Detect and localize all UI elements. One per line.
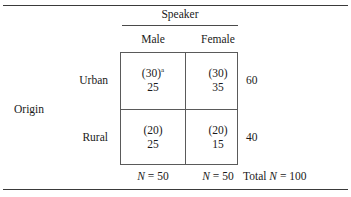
grand-total-prefix: Total — [243, 170, 269, 182]
column-spanner-rule — [122, 25, 238, 26]
expected-frequency: (30) — [186, 66, 250, 80]
column-total-male: N = 50 — [121, 170, 185, 183]
grand-total: Total N = 100 — [243, 170, 343, 183]
table-cell-rural-male: (20) 25 — [121, 123, 185, 151]
stub-title-origin: Origin — [14, 103, 44, 116]
column-total-female: N = 50 — [186, 170, 250, 183]
footnote-marker-icon: a — [161, 66, 164, 74]
n-symbol: N — [202, 170, 210, 182]
column-spanner-label: Speaker — [122, 8, 238, 21]
table-top-rule — [3, 5, 348, 6]
observed-frequency: 35 — [186, 80, 250, 94]
table-cell-urban-female: (30) 35 — [186, 66, 250, 94]
expected-value: (30) — [142, 67, 161, 79]
table-cell-rural-female: (20) 15 — [186, 123, 250, 151]
n-symbol: N — [269, 170, 277, 182]
observed-frequency: 15 — [186, 137, 250, 151]
row-header-rural: Rural — [82, 131, 108, 144]
column-total-value: 50 — [157, 170, 169, 182]
row-header-urban: Urban — [79, 74, 108, 87]
equals-sign: = — [277, 170, 289, 182]
column-header-female: Female — [186, 33, 250, 46]
column-header-male: Male — [121, 33, 185, 46]
expected-frequency: (20) — [121, 123, 185, 137]
contingency-table-figure: Speaker Male Female (30)a 25 (30) 35 (20… — [0, 0, 351, 197]
n-symbol: N — [137, 170, 145, 182]
observed-frequency: 25 — [121, 80, 185, 94]
equals-sign: = — [145, 170, 157, 182]
expected-frequency: (20) — [186, 123, 250, 137]
column-total-value: 50 — [222, 170, 234, 182]
observed-frequency: 25 — [121, 137, 185, 151]
table-cell-urban-male: (30)a 25 — [121, 66, 185, 94]
expected-frequency: (30)a — [121, 66, 185, 80]
equals-sign: = — [210, 170, 222, 182]
table-bottom-rule — [3, 189, 348, 190]
row-total-rural: 40 — [246, 131, 258, 144]
grand-total-value: 100 — [289, 170, 306, 182]
row-divider — [120, 109, 238, 110]
row-total-urban: 60 — [246, 74, 258, 87]
